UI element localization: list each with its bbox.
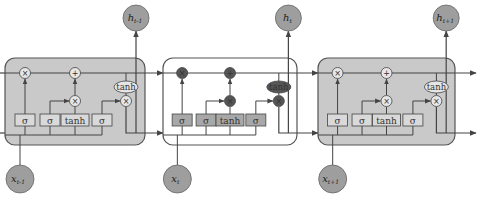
gate-3: σ [403, 114, 423, 126]
gate-label: σ [22, 116, 28, 126]
forget-multiply-op-symbol: × [334, 69, 341, 78]
gate-0: σ [328, 114, 348, 126]
gate-label: σ [203, 116, 209, 126]
output-multiply-op: × [121, 96, 132, 107]
forget-multiply-op: × [332, 68, 343, 79]
gate-1: σ [40, 114, 60, 126]
input-multiply-op: × [70, 96, 81, 107]
input-node: xt-1 [6, 165, 34, 193]
gate-0: σ [15, 114, 35, 126]
input-subscript: t-1 [17, 178, 25, 185]
forget-multiply-op: × [177, 68, 188, 79]
gate-1: σ [352, 114, 372, 126]
gate-1: σ [196, 114, 216, 126]
tanh-op: tanh [424, 81, 448, 93]
lstm-diagram: σσtanhσ×+××tanhxt-1ht-1σσtanhσ×+××tanhxt… [0, 0, 482, 200]
output-node: ht [275, 5, 301, 31]
gate-label: tanh [376, 116, 397, 126]
gate-2: tanh [61, 114, 89, 126]
gate-label: σ [253, 116, 259, 126]
tanh-label: tanh [116, 82, 136, 92]
gate-2: tanh [216, 114, 244, 126]
gate-label: tanh [65, 116, 86, 126]
gate-label: tanh [220, 116, 241, 126]
gate-3: σ [246, 114, 266, 126]
gate-2: tanh [373, 114, 401, 126]
add-op-symbol: + [383, 69, 390, 78]
output-multiply-op-symbol: × [275, 97, 282, 106]
output-multiply-op-symbol: × [123, 97, 130, 106]
lstm-cell-next: σσtanhσ×+××tanhxt+1ht+1 [318, 5, 459, 193]
add-op-symbol: + [72, 69, 79, 78]
tanh-op: tanh [267, 81, 291, 93]
add-op: + [225, 68, 236, 79]
gate-3: σ [92, 114, 112, 126]
gate-label: σ [47, 116, 53, 126]
output-subscript: t+1 [443, 17, 454, 24]
output-subscript: t-1 [134, 17, 142, 24]
output-node: ht+1 [433, 5, 459, 31]
input-multiply-op-symbol: × [72, 97, 79, 106]
input-node: xt+1 [319, 165, 347, 193]
output-multiply-op-symbol: × [433, 97, 440, 106]
tanh-label: tanh [269, 82, 289, 92]
input-node: xt [163, 165, 191, 193]
input-multiply-op-symbol: × [227, 97, 234, 106]
gate-0: σ [172, 114, 192, 126]
forget-multiply-op-symbol: × [22, 69, 29, 78]
input-subscript: t+1 [328, 178, 339, 185]
output-multiply-op: × [273, 96, 284, 107]
input-multiply-op: × [225, 96, 236, 107]
input-multiply-op: × [381, 96, 392, 107]
forget-multiply-op-symbol: × [179, 69, 186, 78]
gate-label: σ [410, 116, 416, 126]
output-node: ht-1 [123, 5, 149, 31]
gate-label: σ [359, 116, 365, 126]
output-multiply-op: × [431, 96, 442, 107]
forget-multiply-op: × [20, 68, 31, 79]
add-op: + [70, 68, 81, 79]
add-op-symbol: + [227, 69, 234, 78]
gate-label: σ [334, 116, 340, 126]
add-op: + [381, 68, 392, 79]
gate-label: σ [179, 116, 185, 126]
tanh-op: tanh [114, 81, 138, 93]
gate-label: σ [99, 116, 105, 126]
lstm-cell-current: σσtanhσ×+××tanhxtht [163, 5, 301, 193]
tanh-label: tanh [427, 82, 447, 92]
input-multiply-op-symbol: × [383, 97, 390, 106]
lstm-cell-prev: σσtanhσ×+××tanhxt-1ht-1 [5, 5, 149, 193]
